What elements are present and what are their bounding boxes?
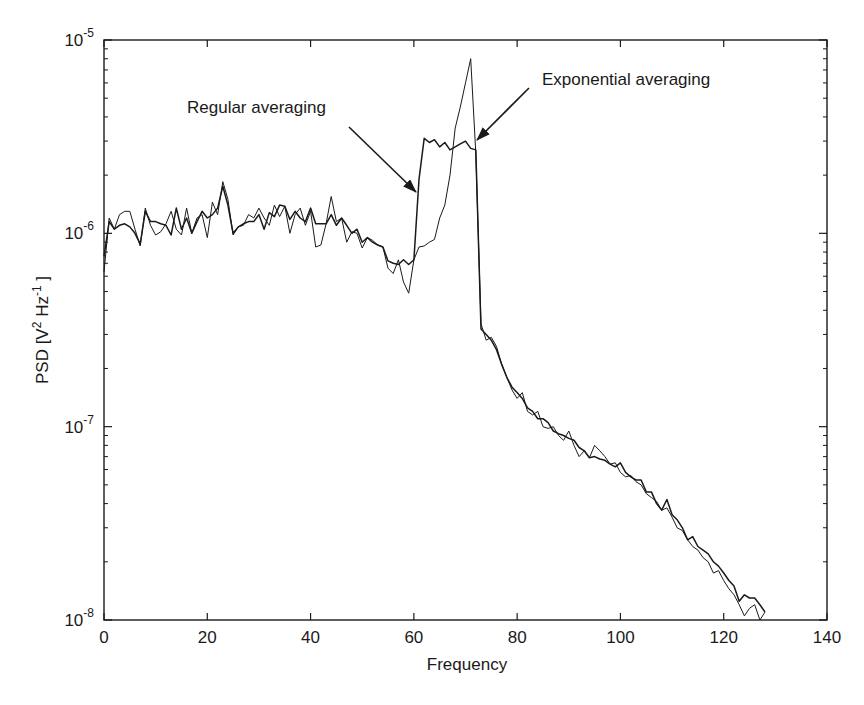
y-axis-tick-labels: 10-810-710-610-5	[64, 26, 94, 630]
x-tick-label: 60	[404, 628, 423, 647]
regular-averaging-line	[104, 138, 765, 612]
arrow-regular-averaging	[349, 127, 416, 192]
x-axis-tick-labels: 020406080100120140	[99, 628, 841, 647]
x-tick-label: 40	[301, 628, 320, 647]
y-axis-label: PSD [V2 Hz-1 ]	[30, 276, 52, 384]
x-tick-label: 120	[710, 628, 738, 647]
y-tick-label: 10-6	[64, 219, 94, 243]
x-tick-label: 80	[508, 628, 527, 647]
y-axis-ticks	[104, 40, 827, 620]
y-tick-label: 10-5	[64, 26, 94, 50]
x-axis-ticks	[104, 40, 827, 620]
x-tick-label: 140	[813, 628, 841, 647]
x-tick-label: 0	[99, 628, 108, 647]
annotation-exponential-averaging: Exponential averaging	[542, 70, 710, 89]
annotation-regular-averaging: Regular averaging	[187, 98, 326, 117]
x-tick-label: 100	[606, 628, 634, 647]
arrow-exponential-averaging	[477, 88, 529, 140]
plot-frame	[104, 40, 827, 620]
x-tick-label: 20	[198, 628, 217, 647]
series-lines	[104, 59, 765, 620]
psd-chart: 020406080100120140 10-810-710-610-5 Freq…	[0, 0, 864, 705]
exponential-averaging-line	[104, 59, 765, 620]
y-tick-label: 10-8	[64, 606, 94, 630]
y-tick-label: 10-7	[64, 413, 94, 437]
x-axis-label: Frequency	[427, 655, 508, 674]
